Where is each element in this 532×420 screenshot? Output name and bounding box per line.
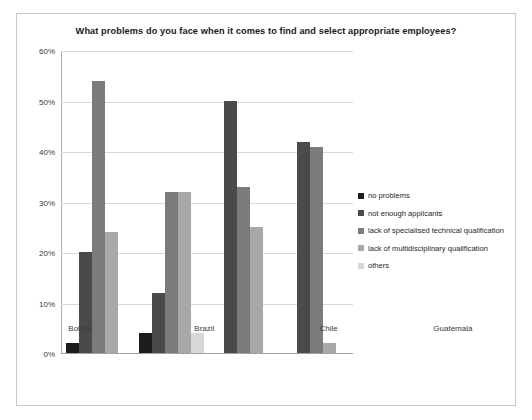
y-axis-tick-label: 60% — [39, 47, 55, 56]
legend-item: lack of specialised technical qualificat… — [358, 226, 508, 235]
legend-swatch-icon — [358, 263, 364, 269]
legend-item: others — [358, 261, 508, 270]
y-axis-tick-label: 50% — [39, 97, 55, 106]
x-axis-tick: Brazil — [142, 317, 266, 337]
x-axis-tick-labels: BoliviaBrazilChileGuatemala — [18, 317, 515, 337]
legend-item-label: lack of multidisciplinary qualification — [368, 244, 488, 253]
plot-area: 0%10%20%30%40%50%60% — [61, 51, 353, 354]
y-axis-tick-label: 20% — [39, 249, 55, 258]
chart-title: What problems do you face when it comes … — [17, 26, 515, 36]
chart-legend: no problemsnot enough applicantslack of … — [358, 191, 508, 279]
bar-group — [62, 51, 135, 353]
bar — [323, 343, 336, 353]
bar — [79, 252, 92, 353]
x-axis-line — [61, 353, 353, 354]
y-axis-tick-label: 30% — [39, 198, 55, 207]
x-axis-tick-label: Chile — [267, 324, 391, 333]
x-axis-tick: Bolivia — [18, 317, 142, 337]
legend-item-label: others — [368, 261, 389, 270]
bar-group — [135, 51, 208, 353]
legend-swatch-icon — [358, 228, 364, 234]
x-axis-tick: Guatemala — [391, 317, 515, 337]
legend-swatch-icon — [358, 245, 364, 251]
y-axis-tick-label: 40% — [39, 148, 55, 157]
x-axis-tick-label: Brazil — [142, 324, 266, 333]
legend-item-label: no problems — [368, 191, 410, 200]
legend-swatch-icon — [358, 193, 364, 199]
legend-item: not enough applicants — [358, 209, 508, 218]
y-axis-tick-label: 0% — [43, 350, 55, 359]
legend-swatch-icon — [358, 210, 364, 216]
bar — [224, 101, 237, 353]
chart-container: What problems do you face when it comes … — [16, 13, 516, 406]
bar-group — [280, 51, 353, 353]
bar — [92, 81, 105, 353]
x-axis-tick-label: Bolivia — [18, 324, 142, 333]
legend-item-label: not enough applicants — [368, 209, 442, 218]
legend-item: no problems — [358, 191, 508, 200]
bar-groups — [62, 51, 353, 353]
x-axis-tick: Chile — [267, 317, 391, 337]
bar — [66, 343, 79, 353]
legend-item: lack of multidisciplinary qualification — [358, 244, 508, 253]
y-axis-tick-label: 10% — [39, 299, 55, 308]
legend-item-label: lack of specialised technical qualificat… — [368, 226, 504, 235]
x-axis-tick-label: Guatemala — [391, 324, 515, 333]
bar-group — [208, 51, 281, 353]
